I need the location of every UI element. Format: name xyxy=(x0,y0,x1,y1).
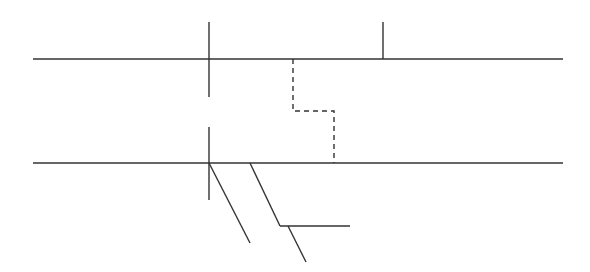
diagonal-line-1 xyxy=(209,163,250,243)
diagonal-line-2 xyxy=(250,163,280,226)
diagram-canvas xyxy=(0,0,590,272)
dashed-step-connector xyxy=(293,59,334,163)
diagonal-line-3 xyxy=(288,226,306,262)
